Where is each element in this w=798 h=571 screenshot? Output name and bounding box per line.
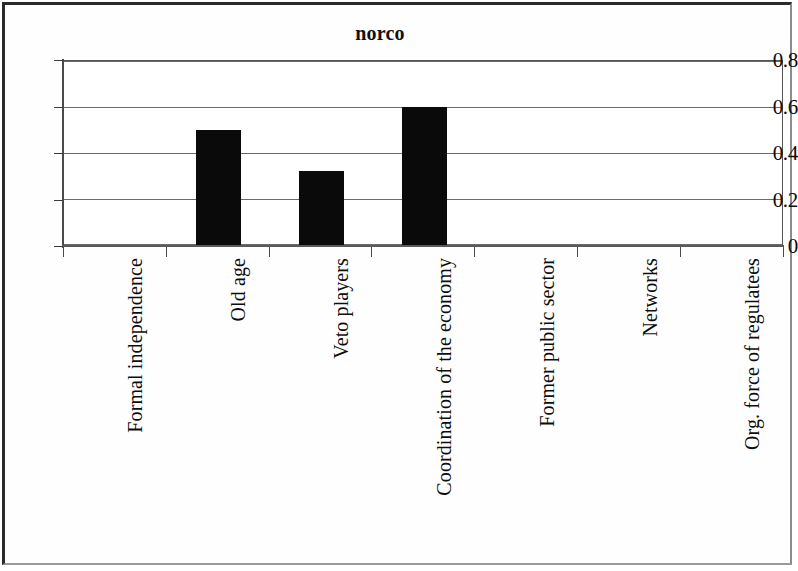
y-tick-label-0.2: 0.2 — [742, 188, 798, 213]
x-category-label-networks: Networks — [639, 258, 662, 337]
x-category-label-formal-independence: Formal independence — [124, 258, 147, 433]
x-category-label-old-age: Old age — [227, 258, 250, 321]
gridline-0.8 — [64, 61, 782, 62]
x-tick-mark-5 — [577, 247, 578, 257]
x-tick-mark-6 — [680, 247, 681, 257]
bar-coordination-of-the-economy — [402, 107, 447, 245]
y-tick-label-0: 0 — [742, 234, 798, 259]
bar-old-age — [196, 130, 241, 245]
x-category-label-former-public-sector: Former public sector — [536, 258, 559, 427]
y-tick-mark-0 — [54, 246, 63, 247]
x-category-label-coordination-of-the-economy: Coordination of the economy — [433, 258, 456, 496]
x-category-label-org-force-of-regulatees: Org. force of regulatees — [741, 258, 764, 450]
plot-area — [63, 60, 783, 246]
x-category-label-veto-players: Veto players — [330, 258, 353, 359]
x-tick-mark-3 — [371, 247, 372, 257]
y-tick-mark-0.8 — [54, 60, 63, 61]
x-tick-mark-2 — [269, 247, 270, 257]
y-tick-label-0.8: 0.8 — [742, 48, 798, 73]
y-tick-mark-0.4 — [54, 153, 63, 154]
y-tick-mark-0.6 — [54, 107, 63, 108]
y-tick-label-0.4: 0.4 — [742, 141, 798, 166]
chart-screenshot: norco 0.8 0.6 0.4 0.2 0 Formal independe… — [0, 0, 798, 571]
x-tick-mark-7 — [783, 247, 784, 257]
y-tick-label-0.6: 0.6 — [742, 95, 798, 120]
x-tick-mark-4 — [474, 247, 475, 257]
x-tick-mark-1 — [166, 247, 167, 257]
x-axis — [62, 245, 784, 247]
y-tick-mark-0.2 — [54, 200, 63, 201]
x-tick-mark-0 — [63, 247, 64, 257]
bar-veto-players — [299, 171, 344, 245]
chart-title: norco — [0, 22, 760, 45]
